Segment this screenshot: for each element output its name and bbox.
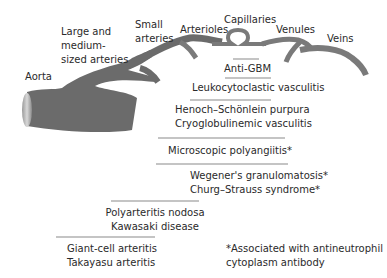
range-bar-anti-gbm	[233, 58, 259, 60]
disease-leukocytoclastic: Leukocytoclastic vasculitis	[192, 81, 324, 94]
footnote-line-1: *Associated with antineutrophil	[226, 242, 383, 255]
label-aorta: Aorta	[25, 70, 52, 83]
disease-microscopic: Microscopic polyangiitis*	[168, 144, 292, 157]
label-arterioles: Arterioles	[180, 23, 228, 36]
label-capillaries: Capillaries	[224, 13, 276, 26]
range-bar-wegener-churg	[156, 163, 288, 165]
disease-polyarteritis: Polyarteritis nodosa	[105, 206, 205, 219]
disease-wegener: Wegener's granulomatosis*	[190, 169, 320, 182]
range-bar-henoch-cryo	[190, 99, 271, 101]
label-veins: Veins	[327, 32, 354, 45]
label-small-arteries-2: arteries	[135, 32, 174, 45]
disease-cryoglobulinemic: Cryoglobulinemic vasculitis	[175, 117, 290, 130]
footnote-line-2: cytoplasm antibody	[226, 256, 325, 269]
disease-kawasaki: Kawasaki disease	[105, 220, 205, 233]
vein-shape	[300, 48, 366, 75]
aorta-opening	[22, 93, 32, 127]
disease-anti-gbm: Anti-GBM	[224, 62, 271, 75]
disease-henoch: Henoch–Schönlein purpura	[175, 103, 290, 116]
label-large-medium-3: sized arteries	[61, 53, 128, 66]
arteriole-branch-shape	[180, 42, 196, 58]
disease-giant-cell: Giant-cell arteritis	[67, 242, 157, 255]
disease-takayasu: Takayasu arteritis	[67, 256, 155, 269]
range-bar-leukocytoclastic	[225, 77, 271, 79]
disease-churg: Churg–Strauss syndrome*	[190, 183, 320, 196]
range-bar-microscopic	[158, 137, 285, 139]
range-bar-polyarteritis-kawasaki	[111, 200, 199, 202]
label-large-medium-2: medium-	[61, 39, 106, 52]
range-bar-giant-cell-takayasu	[56, 236, 155, 238]
label-small-arteries-1: Small	[135, 18, 163, 31]
venule-branch-shape	[286, 42, 300, 62]
label-large-medium-1: Large and	[61, 25, 111, 38]
label-venules: Venules	[276, 23, 315, 36]
